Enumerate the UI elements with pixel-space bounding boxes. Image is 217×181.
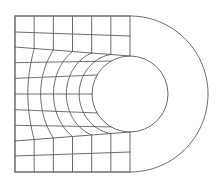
circular-hole <box>92 56 168 132</box>
mesh-svg <box>0 0 217 181</box>
top-mesh-block <box>15 16 130 56</box>
mesh-diagram <box>0 0 217 181</box>
outer-semicircle-edge <box>130 16 208 172</box>
bottom-mesh-block <box>15 132 130 172</box>
curved-mesh-band <box>15 47 111 141</box>
